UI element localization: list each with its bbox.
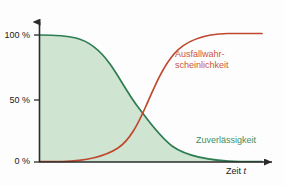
failure-probability-label-line1: Ausfallwahr- [175, 49, 229, 60]
reliability-failure-chart: 100 % 50 % 0 % Ausfallwahr- scheinlichke… [0, 0, 284, 186]
y-axis-tick-label-50: 50 % [0, 95, 30, 105]
reliability-label: Zuverlässigkeit [196, 135, 256, 146]
x-axis-label: Zeit t [226, 166, 246, 176]
chart-plot-area [0, 0, 284, 186]
y-axis-tick-label-100: 100 % [0, 30, 30, 40]
x-axis-label-text: Zeit [226, 166, 241, 176]
x-axis-label-variable: t [244, 166, 247, 176]
failure-probability-label: Ausfallwahr- scheinlichkeit [175, 49, 229, 71]
failure-probability-label-line2: scheinlichkeit [175, 60, 229, 71]
y-axis-tick-label-0: 0 % [0, 156, 30, 166]
